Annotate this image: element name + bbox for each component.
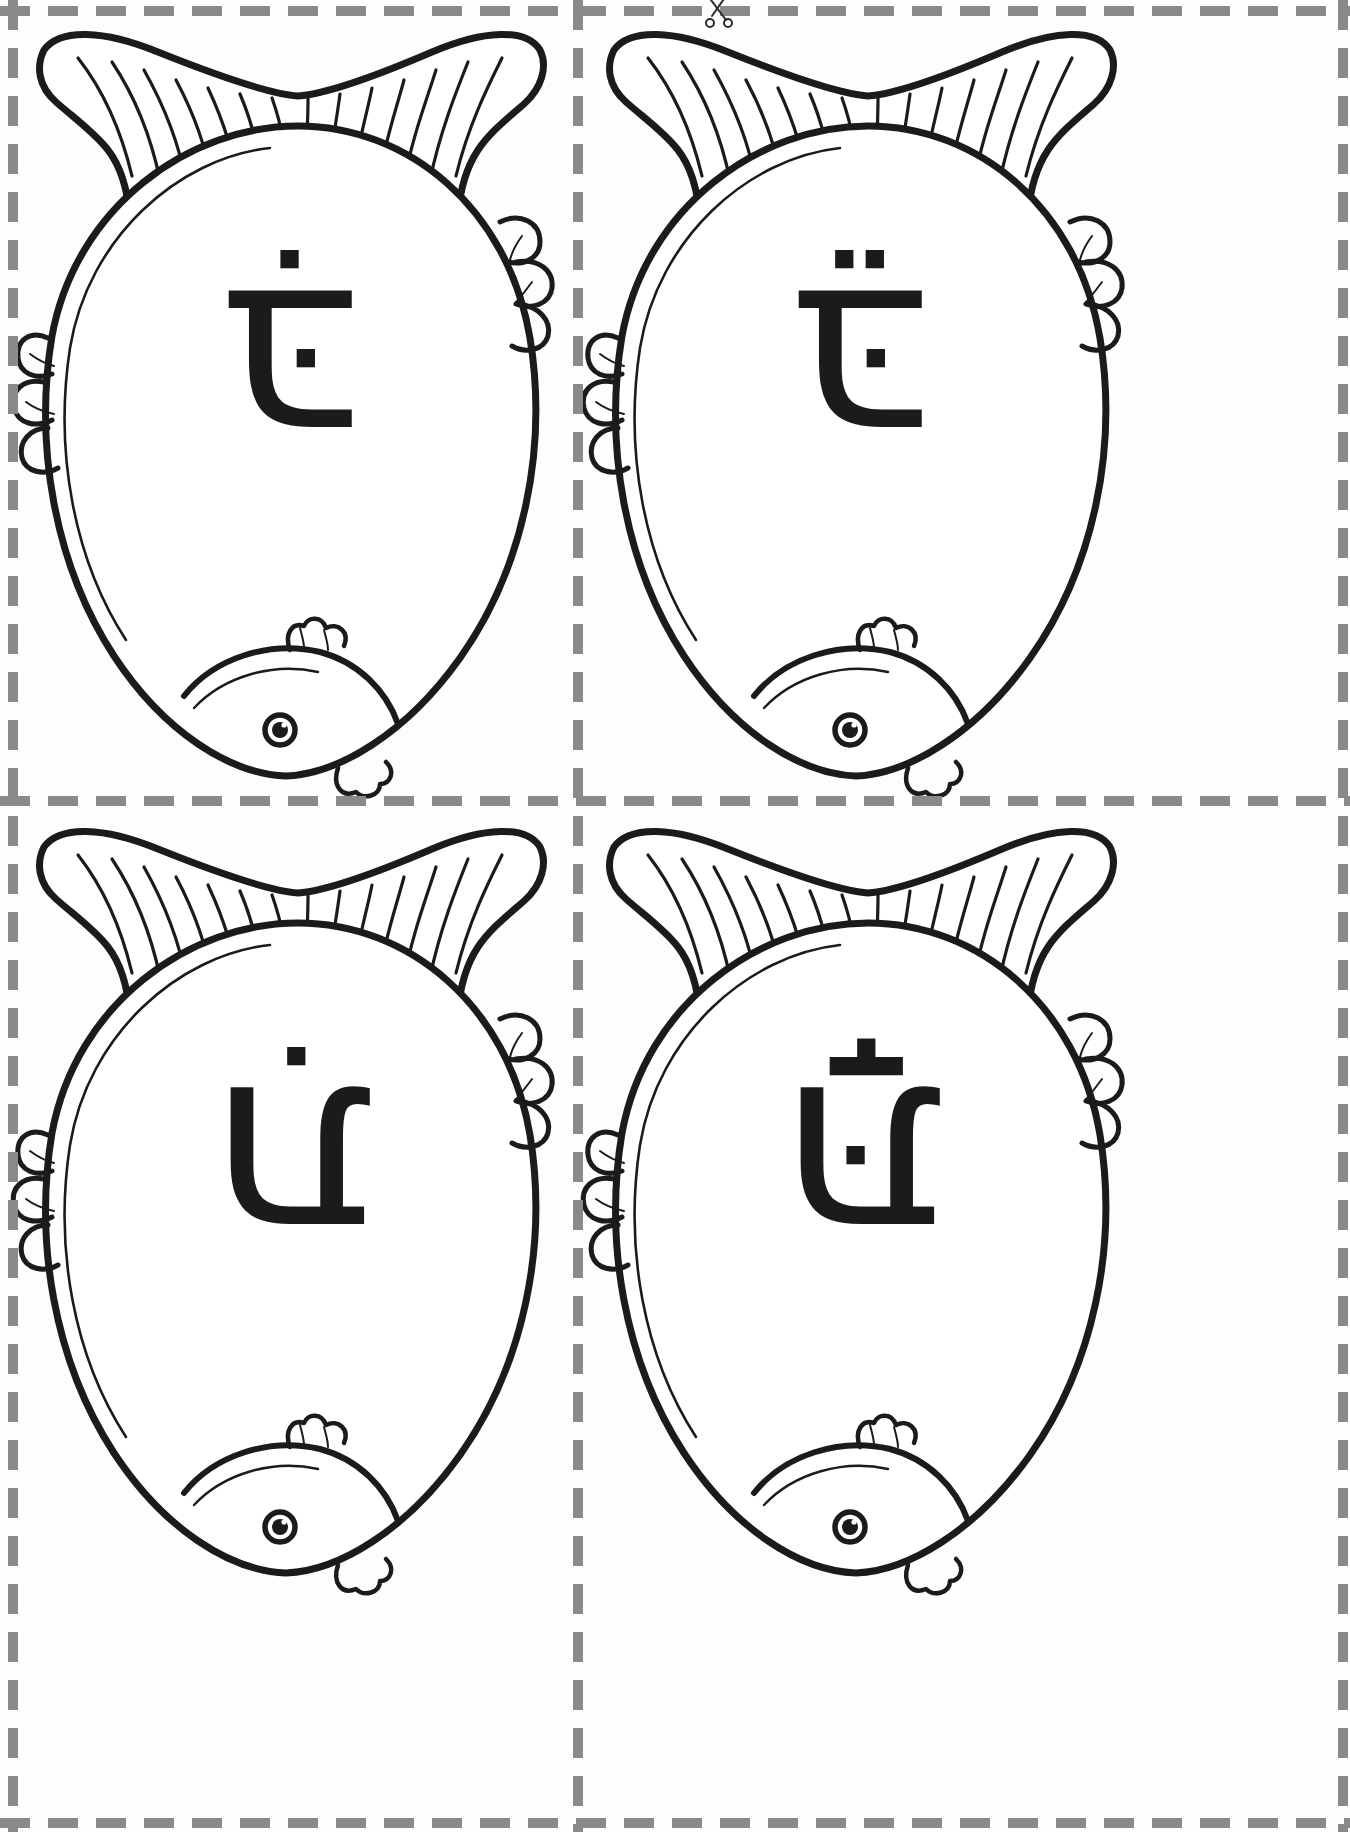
fish-outline xyxy=(578,805,1143,1600)
cut-line-bottom xyxy=(0,1818,1350,1828)
cut-line-right xyxy=(1338,0,1348,1832)
fish-outline xyxy=(578,8,1143,803)
fish-outline xyxy=(8,805,573,1600)
flashcard[interactable]: בִּ xyxy=(8,8,573,803)
worksheet-sheet: בִּ xyxy=(0,0,1350,1832)
flashcard[interactable]: תָּ xyxy=(578,805,1143,1600)
flashcard[interactable]: תִ xyxy=(8,805,573,1600)
fish-outline xyxy=(8,8,573,803)
flashcard[interactable]: בֵּ xyxy=(578,8,1143,803)
scissors-icon xyxy=(700,0,740,28)
